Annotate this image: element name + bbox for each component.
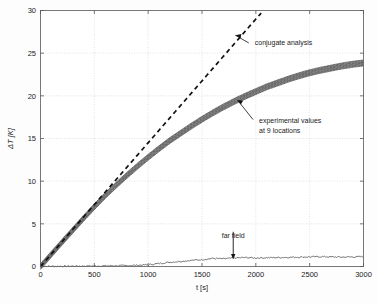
y-axis-label-group: ΔT [K] [6,127,15,150]
figure-container: 050010001500200025003000051015202530t [s… [0,0,377,304]
x-tick-label: 1500 [194,270,211,279]
x-tick-label: 2500 [301,270,318,279]
experimental-annotation-label-line2: at 9 locations [259,127,301,134]
x-tick-label: 500 [88,270,101,279]
experimental-annotation-label-line1: experimental values [259,117,322,125]
y-axis-label: ΔT [K] [6,127,15,150]
x-tick-label: 3000 [355,270,372,279]
chart-svg: 050010001500200025003000051015202530t [s… [0,0,377,304]
conjugate-annotation-label: conjugate analysis [255,39,313,47]
y-tick-label: 10 [28,177,36,186]
y-tick-label: 20 [28,92,36,101]
x-tick-label: 1000 [140,270,157,279]
y-tick-label: 15 [28,134,36,143]
y-tick-label: 0 [32,262,36,271]
x-tick-label: 2000 [247,270,264,279]
far-field-annotation-label: far field [222,232,245,239]
y-tick-label: 25 [28,49,36,58]
x-tick-label: 0 [38,270,42,279]
y-tick-label: 5 [32,220,36,229]
x-axis-label: t [s] [196,283,208,292]
y-tick-label: 30 [28,6,36,15]
